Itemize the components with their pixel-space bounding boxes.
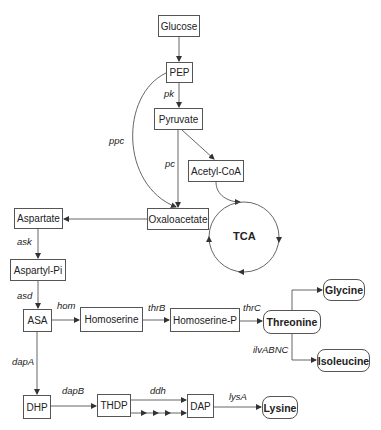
enzyme-thrB: thrB	[148, 302, 165, 313]
pathway-diagram: Glucose PEP Pyruvate Acetyl-CoA Oxaloace…	[0, 0, 381, 430]
tca-arrow-right	[276, 237, 282, 243]
enzyme-ask: ask	[17, 236, 32, 247]
enzyme-ppc: ppc	[109, 135, 124, 146]
edge-threonine-isoleucine	[292, 334, 316, 360]
node-glucose: Glucose	[158, 15, 200, 37]
node-dhp: DHP	[23, 395, 51, 419]
node-aspartate: Aspartate	[14, 208, 63, 229]
node-acetyl-coa: Acetyl-CoA	[188, 160, 244, 182]
node-oxaloacetate: Oxaloacetate	[147, 208, 209, 230]
node-lysine: Lysine	[262, 396, 298, 419]
node-pep: PEP	[166, 62, 193, 83]
enzyme-dapA: dapA	[12, 356, 34, 367]
enzyme-dapB: dapB	[62, 385, 84, 396]
edge-acetylcoa-tca	[216, 182, 240, 202]
enzyme-lysA: lysA	[229, 391, 247, 402]
node-aspartyl-pi: Aspartyl-Pi	[10, 259, 66, 281]
enzyme-thrC: thrC	[243, 302, 261, 313]
multistep-arrow-2	[153, 410, 159, 416]
enzyme-pk: pk	[164, 88, 174, 99]
multistep-arrow-3	[165, 410, 171, 416]
tca-label: TCA	[233, 230, 256, 242]
multistep-arrow-1	[141, 410, 147, 416]
edge-pyruvate-acetylcoa	[182, 130, 214, 159]
node-thdp: THDP	[97, 394, 131, 417]
node-asa: ASA	[23, 309, 52, 332]
node-pyruvate: Pyruvate	[154, 108, 203, 130]
node-threonine: Threonine	[263, 310, 321, 334]
enzyme-pc: pc	[165, 158, 175, 169]
node-dap: DAP	[187, 394, 214, 418]
node-isoleucine: Isoleucine	[317, 349, 370, 372]
node-glycine: Glycine	[323, 279, 365, 301]
node-homoserine: Homoserine	[80, 307, 143, 332]
enzyme-hom: hom	[57, 300, 75, 311]
edge-threonine-glycine	[292, 290, 322, 310]
enzyme-asd: asd	[17, 290, 32, 301]
tca-arrow-bottom	[238, 269, 244, 275]
tca-arrow-left	[206, 236, 212, 242]
node-homoserine-p: Homoserine-P	[170, 308, 240, 332]
enzyme-ilvABNC: ilvABNC	[253, 344, 288, 355]
enzyme-ddh: ddh	[150, 385, 166, 396]
